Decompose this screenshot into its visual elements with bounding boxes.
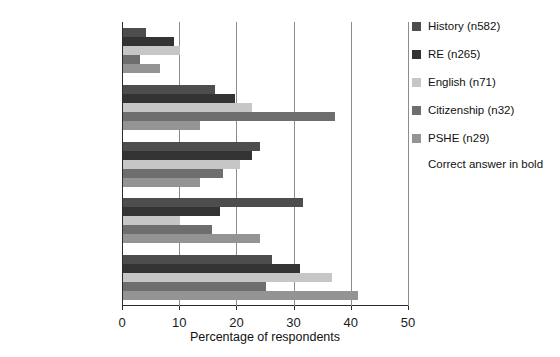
bar — [123, 55, 140, 64]
chart-figure: 01020304050 more than 30%approximately 1… — [0, 0, 560, 357]
x-tick-label-10: 10 — [172, 315, 186, 330]
bar — [123, 28, 146, 37]
bar — [123, 178, 200, 187]
legend-label: History (n582) — [428, 20, 500, 32]
bar — [123, 121, 200, 130]
tick-mark-40 — [351, 306, 352, 310]
tick-mark-20 — [236, 306, 237, 310]
x-tick-label-40: 40 — [344, 315, 358, 330]
x-tick-label-0: 0 — [118, 315, 125, 330]
plot-area: 01020304050 — [122, 22, 408, 306]
x-tick-label-30: 30 — [286, 315, 300, 330]
x-tick-label-50: 50 — [401, 315, 415, 330]
legend-label: PSHE (n29) — [428, 132, 489, 144]
bar — [123, 169, 223, 178]
bar — [123, 103, 252, 112]
legend-swatch-icon — [412, 78, 421, 87]
bar — [123, 37, 174, 46]
bar — [123, 225, 212, 234]
bar — [123, 282, 266, 291]
bar — [123, 273, 332, 282]
legend-swatch-icon — [412, 22, 421, 31]
chart-legend: History (n582)RE (n265)English (n71)Citi… — [412, 18, 558, 170]
bar — [123, 216, 180, 225]
bar — [123, 85, 215, 94]
legend-swatch-icon — [412, 106, 421, 115]
bar — [123, 142, 260, 151]
bar — [123, 160, 240, 169]
tick-mark-50 — [408, 306, 409, 310]
legend-swatch-icon — [412, 134, 421, 143]
legend-label: RE (n265) — [428, 48, 480, 60]
x-axis-title: Percentage of respondents — [122, 330, 408, 344]
bar — [123, 46, 180, 55]
bar-group — [123, 198, 409, 243]
bar-group — [123, 142, 409, 187]
x-tick-label-20: 20 — [229, 315, 243, 330]
legend-item: RE (n265) — [412, 46, 558, 62]
legend-label: English (n71) — [428, 76, 496, 88]
bar — [123, 198, 303, 207]
bar — [123, 291, 358, 300]
x-axis-line — [122, 305, 408, 306]
legend-item: PSHE (n29) — [412, 130, 558, 146]
legend-item: History (n582) — [412, 18, 558, 34]
bar-group — [123, 28, 409, 73]
tick-mark-0 — [122, 306, 123, 310]
bar — [123, 234, 260, 243]
legend-item: Citizenship (n32) — [412, 102, 558, 118]
bar — [123, 264, 300, 273]
bar — [123, 64, 160, 73]
bar — [123, 151, 252, 160]
legend-note: Correct answer in bold — [428, 158, 558, 170]
bar — [123, 112, 335, 121]
bar-group — [123, 255, 409, 300]
legend-item: English (n71) — [412, 74, 558, 90]
legend-swatch-icon — [412, 50, 421, 59]
legend-label: Citizenship (n32) — [428, 104, 514, 116]
tick-mark-30 — [294, 306, 295, 310]
bar — [123, 94, 235, 103]
bar — [123, 255, 272, 264]
bar — [123, 207, 220, 216]
bar-group — [123, 85, 409, 130]
tick-mark-10 — [179, 306, 180, 310]
